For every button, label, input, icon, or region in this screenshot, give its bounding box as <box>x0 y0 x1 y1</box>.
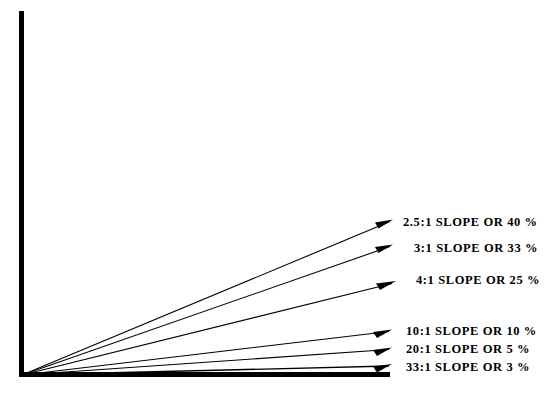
slope-diagram: 2.5:1 SLOPE OR 40 % 3:1 SLOPE OR 33 % 4:… <box>0 0 557 394</box>
slope-chart-svg <box>0 0 557 394</box>
chart-background <box>0 0 557 394</box>
